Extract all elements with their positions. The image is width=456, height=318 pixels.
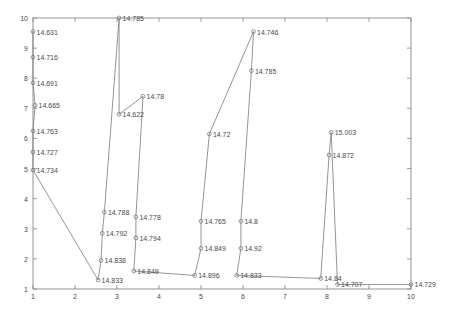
data-point-value-label: 14.665: [39, 102, 60, 109]
data-point-value-label: 14.763: [37, 127, 58, 134]
data-point-value-label: 14.896: [198, 272, 219, 279]
data-point-value-label: 14.792: [106, 230, 127, 237]
data-point-value-label: 14.765: [205, 218, 226, 225]
data-point-value-label: 14.785: [123, 15, 144, 22]
x-tick-label: 3: [115, 293, 119, 300]
data-point-value-label: 14.729: [415, 281, 436, 288]
y-tick-label: 7: [12, 105, 28, 112]
data-point-value-label: 15.003: [335, 129, 356, 136]
data-point-value-label: 14.833: [240, 272, 261, 279]
plot-canvas: [0, 0, 456, 318]
x-tick-label: 1: [31, 293, 35, 300]
data-point-value-label: 14.849: [205, 245, 226, 252]
x-tick-label: 6: [241, 293, 245, 300]
data-point-value-label: 14.622: [123, 111, 144, 118]
data-point-value-label: 14.78: [147, 93, 165, 100]
data-point-value-label: 14.8: [244, 218, 258, 225]
data-point-value-label: 14.785: [255, 67, 276, 74]
data-point-value-label: 14.734: [37, 167, 58, 174]
data-point-value-label: 14.794: [139, 234, 160, 241]
data-point-value-label: 14.727: [37, 148, 58, 155]
y-tick-label: 8: [12, 75, 28, 82]
x-tick-label: 10: [407, 293, 415, 300]
y-tick-label: 9: [12, 45, 28, 52]
data-point-value-label: 14.72: [213, 130, 231, 137]
data-point-value-label: 14.746: [257, 28, 278, 35]
data-point-value-label: 14.631: [37, 28, 58, 35]
data-point-value-label: 14.92: [244, 245, 262, 252]
data-point-value-label: 14.84: [324, 275, 342, 282]
data-point-value-label: 14.872: [333, 152, 354, 159]
data-point-value-label: 14.788: [108, 209, 129, 216]
x-tick-label: 8: [325, 293, 329, 300]
x-tick-label: 4: [157, 293, 161, 300]
y-tick-label: 10: [12, 15, 28, 22]
y-tick-label: 4: [12, 195, 28, 202]
y-tick-label: 6: [12, 135, 28, 142]
data-point-value-label: 14.707: [341, 281, 362, 288]
chart-figure: 12345678910 12345678910 14.63114.71614.6…: [0, 0, 456, 318]
x-tick-label: 9: [367, 293, 371, 300]
y-tick-label: 5: [12, 165, 28, 172]
data-point-value-label: 14.778: [139, 213, 160, 220]
data-point-value-label: 14.716: [37, 54, 58, 61]
y-tick-label: 2: [12, 255, 28, 262]
x-tick-label: 2: [73, 293, 77, 300]
y-tick-label: 3: [12, 225, 28, 232]
data-point-value-label: 14.833: [102, 276, 123, 283]
data-point-value-label: 14.691: [37, 79, 58, 86]
data-point-value-label: 14.838: [105, 257, 126, 264]
y-tick-label: 1: [12, 286, 28, 293]
data-point-value-label: 14.849: [137, 267, 158, 274]
x-tick-label: 5: [199, 293, 203, 300]
x-tick-label: 7: [283, 293, 287, 300]
